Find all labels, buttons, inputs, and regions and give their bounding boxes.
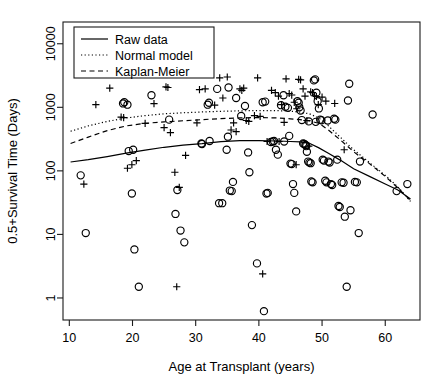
data-point-circle bbox=[260, 308, 267, 315]
data-point-circle bbox=[347, 207, 354, 214]
curve-dotted bbox=[71, 111, 411, 202]
data-point-plus bbox=[80, 180, 87, 187]
data-point-plus bbox=[257, 113, 264, 120]
y-axis-ticks: 110100100010000 bbox=[45, 26, 64, 301]
data-point-plus bbox=[162, 83, 169, 90]
data-point-circle bbox=[77, 172, 84, 179]
data-point-circle bbox=[315, 105, 322, 112]
data-point-plus bbox=[202, 85, 209, 92]
curve-solid bbox=[71, 141, 411, 200]
plot-canvas: 102030405060 110100100010000 Raw dataNor… bbox=[0, 0, 437, 385]
data-point-circle bbox=[246, 169, 253, 176]
data-point-plus bbox=[182, 152, 189, 159]
data-point-plus bbox=[230, 119, 237, 126]
x-tick-label-20: 20 bbox=[126, 331, 140, 345]
data-point-plus bbox=[196, 86, 203, 93]
legend: Raw dataNormal modelKaplan-Meier bbox=[74, 27, 214, 79]
data-point-circle bbox=[341, 213, 348, 220]
data-point-plus bbox=[106, 85, 113, 92]
data-point-circle bbox=[166, 116, 173, 123]
data-point-circle bbox=[314, 98, 321, 105]
y-tick-label-10: 10 bbox=[45, 227, 59, 241]
x-tick-label-60: 60 bbox=[378, 331, 392, 345]
data-point-plus bbox=[171, 169, 178, 176]
fitted-curves-layer bbox=[71, 111, 411, 202]
data-point-circle bbox=[148, 92, 155, 99]
data-point-circle bbox=[223, 146, 230, 153]
data-point-plus bbox=[167, 129, 174, 136]
data-point-plus bbox=[128, 161, 135, 168]
survival-scatter-chart: 102030405060 110100100010000 Raw dataNor… bbox=[0, 0, 437, 385]
data-point-plus bbox=[224, 73, 231, 80]
data-point-plus bbox=[275, 93, 282, 100]
data-point-circle bbox=[369, 111, 376, 118]
y-tick-label-10000: 10000 bbox=[45, 26, 59, 61]
legend-entry-normal-model: Normal model bbox=[115, 49, 193, 63]
data-point-plus bbox=[92, 101, 99, 108]
data-point-circle bbox=[135, 283, 142, 290]
series-circle bbox=[77, 76, 411, 315]
legend-entry-raw-data: Raw data bbox=[115, 33, 168, 47]
data-point-plus bbox=[161, 124, 168, 131]
data-point-plus bbox=[331, 100, 338, 107]
data-point-plus bbox=[259, 270, 266, 277]
y-axis-title: 0.5+Survival Time (Days) bbox=[5, 98, 20, 244]
data-point-plus bbox=[124, 165, 131, 172]
data-point-circle bbox=[346, 80, 353, 87]
data-point-circle bbox=[214, 85, 221, 92]
data-point-circle bbox=[233, 94, 240, 101]
data-point-plus bbox=[233, 128, 240, 135]
data-point-circle bbox=[253, 260, 260, 267]
data-point-plus bbox=[282, 75, 289, 82]
data-point-circle bbox=[355, 229, 362, 236]
x-tick-label-40: 40 bbox=[252, 331, 266, 345]
data-point-circle bbox=[280, 92, 287, 99]
legend-entry-kaplan-meier: Kaplan-Meier bbox=[115, 65, 189, 79]
y-tick-label-1000: 1000 bbox=[45, 93, 59, 121]
data-point-plus bbox=[236, 85, 243, 92]
data-point-circle bbox=[177, 227, 184, 234]
data-point-plus bbox=[173, 283, 180, 290]
data-point-plus bbox=[300, 85, 307, 92]
data-point-circle bbox=[172, 210, 179, 217]
y-tick-label-1: 1 bbox=[45, 294, 59, 301]
data-point-plus bbox=[341, 146, 348, 153]
x-tick-label-10: 10 bbox=[62, 331, 76, 345]
data-point-circle bbox=[229, 178, 236, 185]
data-point-plus bbox=[254, 74, 261, 81]
data-point-plus bbox=[150, 100, 157, 107]
data-point-plus bbox=[227, 126, 234, 133]
data-point-circle bbox=[224, 133, 231, 140]
data-point-plus bbox=[219, 94, 226, 101]
data-point-plus bbox=[216, 74, 223, 81]
x-axis-ticks: 102030405060 bbox=[62, 320, 392, 345]
data-point-plus bbox=[297, 76, 304, 83]
data-point-circle bbox=[404, 180, 411, 187]
data-point-plus bbox=[322, 98, 329, 105]
x-tick-label-50: 50 bbox=[315, 331, 329, 345]
data-point-circle bbox=[248, 222, 255, 229]
data-point-circle bbox=[289, 180, 296, 187]
curve-dashed bbox=[71, 118, 411, 201]
data-point-circle bbox=[241, 102, 248, 109]
x-tick-label-30: 30 bbox=[189, 331, 203, 345]
data-point-plus bbox=[164, 84, 171, 91]
data-point-circle bbox=[225, 84, 232, 91]
data-point-circle bbox=[293, 208, 300, 215]
data-point-circle bbox=[131, 246, 138, 253]
data-points-layer bbox=[77, 73, 411, 314]
data-point-circle bbox=[343, 283, 350, 290]
y-tick-label-100: 100 bbox=[45, 160, 59, 181]
x-axis-title: Age at Transplant (years) bbox=[169, 359, 315, 374]
data-point-circle bbox=[128, 190, 135, 197]
data-point-circle bbox=[245, 149, 252, 156]
data-point-circle bbox=[82, 229, 89, 236]
data-point-plus bbox=[176, 184, 183, 191]
data-point-circle bbox=[344, 97, 351, 104]
data-point-plus bbox=[281, 119, 288, 126]
data-point-plus bbox=[301, 93, 308, 100]
data-point-plus bbox=[133, 157, 140, 164]
data-point-circle bbox=[181, 239, 188, 246]
data-point-circle bbox=[291, 189, 298, 196]
